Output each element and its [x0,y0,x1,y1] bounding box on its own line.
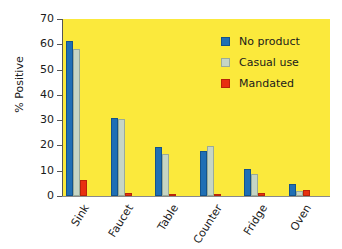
y-axis-tick-label: 20 [28,139,54,150]
y-axis-tick-value: 40 [32,89,54,100]
x-axis-label: Table [136,202,181,249]
y-axis-tick-value: 30 [32,114,54,125]
x-axis-label: Oven [269,202,314,249]
y-axis-tick-value: 10 [32,165,54,176]
y-axis-tick-value: 60 [32,38,54,49]
x-axis-label: Sink [47,202,92,249]
y-axis-title: % Positive [13,35,26,135]
legend-swatch [221,79,230,88]
x-axis-label: Fridge [225,202,270,249]
y-axis-tick-value: 70 [32,13,54,24]
y-axis-tick-label: 40 [28,89,54,100]
bar [244,169,251,196]
legend-swatch [221,37,230,46]
bar [80,180,87,196]
bar [73,49,80,196]
y-axis-tick-value: 0 [32,190,54,201]
y-axis-tick-label: 60 [28,38,54,49]
bar [155,147,162,196]
y-axis-tick-label: 0 [28,190,54,201]
y-axis-tick-label: 70 [28,13,54,24]
y-axis-tick-label: 10 [28,165,54,176]
bar [289,184,296,196]
x-axis-label: Faucet [91,202,136,249]
legend-swatch [221,58,230,67]
legend-label: No product [239,35,300,48]
y-axis-tick-label: 50 [28,64,54,75]
bar [200,151,207,197]
y-axis-tick-value: 20 [32,139,54,150]
x-axis-label: Counter [180,202,225,249]
y-axis-tick-value: 50 [32,64,54,75]
bar [251,174,258,196]
legend-label: Mandated [239,77,294,90]
bar-chart: % Positive 010203040506070 SinkFaucetTab… [0,0,342,249]
bar [207,146,214,196]
bar [111,118,118,196]
bar-group [200,19,221,196]
y-axis-tick-label: 30 [28,114,54,125]
x-axis-line [62,196,330,197]
bar [162,154,169,196]
bar-group [111,19,132,196]
legend-label: Casual use [239,56,299,69]
bar-group [155,19,176,196]
bar [118,119,125,196]
bar-group [66,19,87,196]
bar [66,41,73,197]
